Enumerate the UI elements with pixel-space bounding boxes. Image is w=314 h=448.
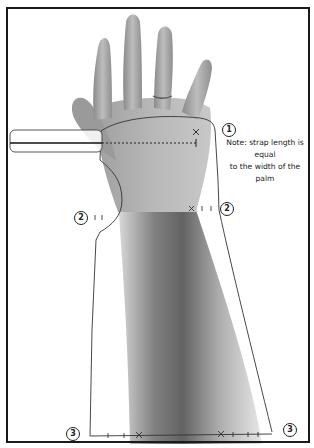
note-line-2: to the width of the palm — [220, 161, 310, 185]
marker-3-right: 3 — [283, 423, 297, 437]
note-line-1: Note: strap length is equal — [220, 137, 310, 161]
marker-3-left: 3 — [66, 427, 80, 441]
marker-2-left: 2 — [74, 211, 88, 225]
marker-2-right: 2 — [220, 202, 234, 216]
figure-frame — [6, 7, 310, 443]
strap-note: Note: strap length is equal to the width… — [220, 137, 310, 185]
marker-1: 1 — [222, 123, 236, 137]
pattern-diagram: 1 2 2 3 3 Note: strap length is equal to… — [0, 0, 314, 448]
